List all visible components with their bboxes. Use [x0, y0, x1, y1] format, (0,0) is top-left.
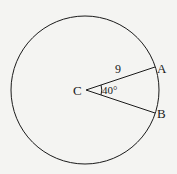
circle: [11, 16, 159, 164]
point-a-label: A: [157, 61, 167, 76]
radius-cb: [86, 90, 155, 113]
angle-label: 40°: [102, 84, 117, 96]
center-label: C: [73, 83, 82, 98]
point-b-label: B: [157, 106, 166, 121]
circle-diagram: C A B 9 40°: [0, 0, 177, 174]
radius-label: 9: [115, 62, 121, 76]
